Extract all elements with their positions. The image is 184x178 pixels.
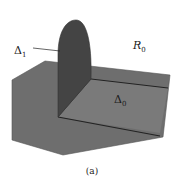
label-delta1: Δ1 bbox=[14, 44, 26, 59]
leader-line-delta1 bbox=[33, 48, 60, 51]
diagram-figure: Δ1 R0 Δ0 (a) bbox=[0, 0, 184, 178]
label-r0: R0 bbox=[132, 39, 146, 54]
figure-caption: (a) bbox=[86, 166, 98, 176]
